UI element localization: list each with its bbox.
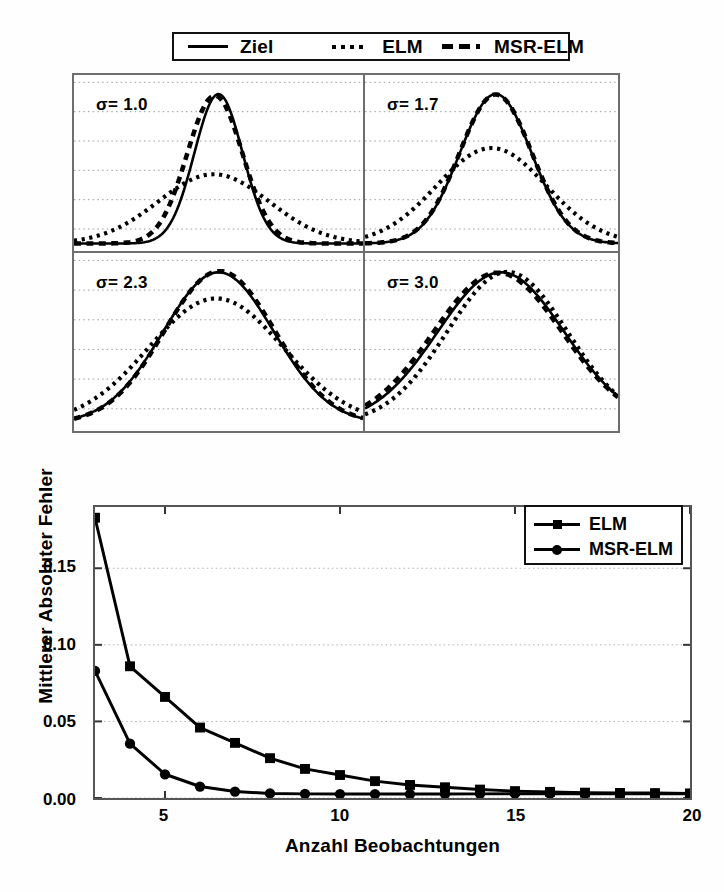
panel-sigma-2-3: σ= 2.3 <box>74 253 365 431</box>
figure-root: Ziel ELM MSR-ELM σ= 1.0 σ= 1.7 σ= 2.3 σ=… <box>0 0 724 892</box>
legend-label-line-elm: ELM <box>589 514 627 535</box>
y-axis-ticks: 0.15 0.10 0.05 0.00 <box>0 470 86 890</box>
x-tick-label-20: 20 <box>662 806 722 826</box>
legend-entry-msr-elm: MSR-ELM <box>442 34 568 59</box>
legend-label-line-msr-elm: MSR-ELM <box>589 539 673 560</box>
dashed-line-icon <box>442 41 482 53</box>
curve-legend: Ziel ELM MSR-ELM <box>172 32 570 61</box>
gaussian-panel-grid: σ= 1.0 σ= 1.7 σ= 2.3 σ= 3.0 <box>72 73 620 433</box>
square-marker-line-icon <box>534 518 580 532</box>
solid-line-icon <box>188 41 228 53</box>
x-tick-label-5: 5 <box>133 806 193 826</box>
y-tick-label-0-00: 0.00 <box>6 790 76 810</box>
legend-label-elm: ELM <box>382 36 423 58</box>
panel-plot-0 <box>74 75 363 251</box>
error-line-chart: Mittlerer Absoluter Fehler 0.15 0.10 0.0… <box>0 470 724 890</box>
panel-plot-1 <box>365 75 618 251</box>
legend-entry-elm: ELM <box>330 34 442 59</box>
panel-plot-2 <box>74 253 363 431</box>
legend-label-ziel: Ziel <box>240 36 274 58</box>
legend-entry-ziel: Ziel <box>174 34 330 59</box>
circle-marker-line-icon <box>534 543 580 557</box>
y-tick-label-0-10: 0.10 <box>6 635 76 655</box>
panel-sigma-1-7: σ= 1.7 <box>365 75 618 253</box>
panel-plot-3 <box>365 253 618 431</box>
panel-sigma-3-0: σ= 3.0 <box>365 253 618 431</box>
x-tick-label-10: 10 <box>310 806 370 826</box>
panel-sigma-1-0: σ= 1.0 <box>74 75 365 253</box>
y-tick-label-0-05: 0.05 <box>6 712 76 732</box>
legend-label-msr-elm: MSR-ELM <box>494 36 584 58</box>
dotted-line-icon <box>330 41 370 53</box>
x-tick-label-15: 15 <box>486 806 546 826</box>
legend-row-msr-elm: MSR-ELM <box>526 537 681 562</box>
line-chart-legend: ELM MSR-ELM <box>524 505 683 565</box>
legend-row-elm: ELM <box>526 512 681 537</box>
y-tick-label-0-15: 0.15 <box>6 557 76 577</box>
x-axis-title: Anzahl Beobachtungen <box>93 835 692 857</box>
